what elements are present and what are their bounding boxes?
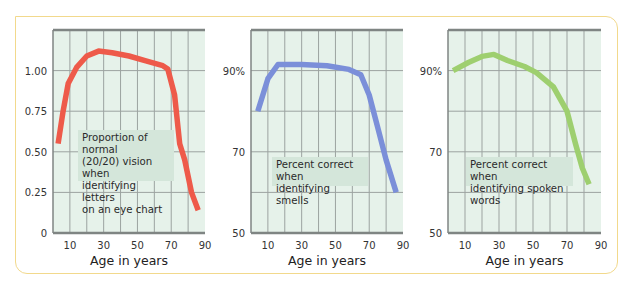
x-tick-label: 70 — [165, 240, 178, 251]
x-tick-label: 70 — [363, 240, 376, 251]
y-tick-label: 90% — [420, 66, 442, 77]
x-tick-label: 10 — [459, 240, 472, 251]
y-tick-label: 50 — [429, 228, 442, 239]
x-tick-label: 30 — [493, 240, 506, 251]
y-tick-label: 1.00 — [25, 66, 47, 77]
x-tick-label: 30 — [97, 240, 110, 251]
x-tick-label: 50 — [329, 240, 342, 251]
x-tick-label: 90 — [199, 240, 212, 251]
x-tick-label: 30 — [295, 240, 308, 251]
chart-annotation: Proportion of normal (20/20) vision when… — [78, 130, 174, 181]
x-axis-title: Age in years — [90, 253, 168, 268]
chart-2: 507090%1030507090Age in years — [223, 30, 410, 268]
x-tick-label: 10 — [64, 240, 77, 251]
y-tick-label: 90% — [223, 66, 245, 77]
x-tick-label: 50 — [527, 240, 540, 251]
chart-annotation: Percent correct when identifying spoken … — [466, 157, 573, 186]
x-axis-title: Age in years — [288, 253, 366, 268]
x-tick-label: 70 — [561, 240, 574, 251]
chart-annotation: Percent correct when identifying smells — [272, 157, 368, 186]
x-axis-title: Age in years — [486, 253, 564, 268]
y-tick-label: 0 — [41, 228, 47, 239]
y-tick-label: 70 — [232, 147, 245, 158]
x-tick-label: 10 — [262, 240, 275, 251]
x-tick-label: 50 — [131, 240, 144, 251]
y-tick-label: 0.75 — [25, 106, 47, 117]
y-tick-label: 0.50 — [25, 147, 47, 158]
y-tick-label: 0.25 — [25, 187, 47, 198]
x-tick-label: 90 — [397, 240, 410, 251]
y-tick-label: 70 — [429, 147, 442, 158]
x-tick-label: 90 — [595, 240, 608, 251]
chart-3: 507090%1030507090Age in years — [420, 30, 608, 268]
y-tick-label: 50 — [232, 228, 245, 239]
